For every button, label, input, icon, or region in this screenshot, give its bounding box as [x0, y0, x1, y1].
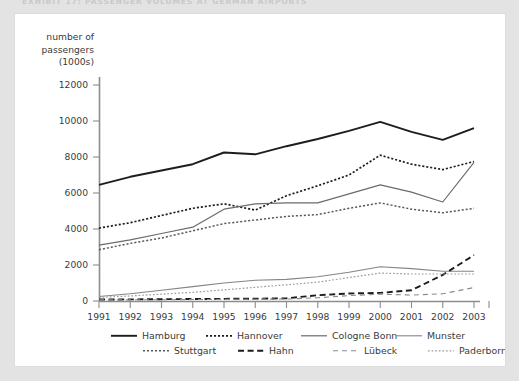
- chart-panel: number ofpassengers(1000s)02000400060008…: [15, 14, 505, 366]
- x-axis-tick-label: 1994: [181, 311, 205, 322]
- x-axis-tick-label: 2003: [462, 311, 486, 322]
- x-axis-tick-label: 2000: [369, 311, 393, 322]
- y-axis-tick-label: 12000: [59, 79, 88, 90]
- series-line-hannover: [99, 155, 474, 228]
- x-axis-tick-label: 1997: [275, 311, 299, 322]
- legend-label-hannover: Hannover: [237, 330, 283, 341]
- chart-svg: number ofpassengers(1000s)02000400060008…: [15, 14, 505, 366]
- x-axis-tick-label: 2001: [400, 311, 423, 322]
- x-axis-tick-label: 1992: [119, 311, 142, 322]
- x-axis-tick-label: 1993: [150, 311, 174, 322]
- legend-label-hamburg: Hamburg: [142, 330, 186, 341]
- y-axis-tick-label: 4000: [65, 223, 89, 234]
- x-axis-tick-label: 1991: [87, 311, 110, 322]
- legend-label-munster: Munster: [427, 330, 465, 341]
- y-axis-tick-label: 6000: [65, 187, 89, 198]
- y-axis-title-line: passengers: [41, 44, 94, 55]
- y-axis-title-line: number of: [46, 31, 94, 42]
- series-line-cologne-bonn: [99, 162, 474, 245]
- series-line-hahn: [99, 255, 474, 299]
- x-axis-tick-label: 1996: [244, 311, 268, 322]
- legend-label-hahn: Hahn: [269, 345, 294, 356]
- y-axis-tick-label: 10000: [59, 115, 88, 126]
- legend-label-paderborn: Paderborn: [459, 345, 505, 356]
- x-axis-tick-label: 1998: [306, 311, 330, 322]
- series-line-paderborn: [99, 273, 474, 297]
- legend-label-stuttgart: Stuttgart: [174, 345, 216, 356]
- series-line-hamburg: [99, 122, 474, 185]
- line-chart: number ofpassengers(1000s)02000400060008…: [15, 14, 505, 366]
- y-axis-tick-label: 8000: [65, 151, 89, 162]
- y-axis-tick-label: 2000: [65, 259, 89, 270]
- x-axis-tick-label: 1999: [337, 311, 361, 322]
- legend-label-cologne-bonn: Cologne Bonn: [332, 330, 397, 341]
- x-axis-tick-label: 1995: [212, 311, 236, 322]
- x-axis-tick-label: 2002: [431, 311, 454, 322]
- y-axis-tick-label: 0: [82, 295, 88, 306]
- y-axis-title-line: (1000s): [59, 56, 94, 67]
- legend-label-l-beck: Lübeck: [364, 345, 398, 356]
- exhibit-title: Exhibit 17: Passenger volumes at German …: [22, 0, 307, 6]
- series-line-stuttgart: [99, 203, 474, 250]
- series-line-munster: [99, 267, 474, 297]
